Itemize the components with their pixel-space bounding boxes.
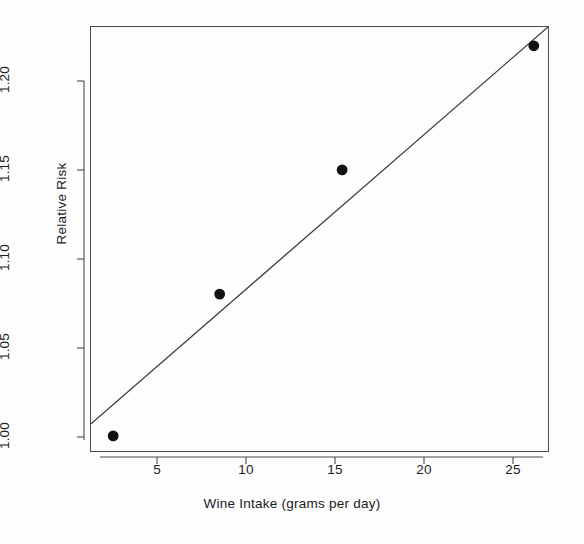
x-axis-title: Wine Intake (grams per day) [0, 496, 584, 511]
y-axis-title: Relative Risk [20, 196, 60, 211]
y-tick-label-text: 1.05 [0, 333, 12, 360]
y-tick-label-text: 1.00 [0, 422, 12, 449]
y-axis-title-text: Relative Risk [54, 162, 69, 244]
x-tick-label-10: 10 [238, 462, 253, 477]
y-tick-label-1-05: 1.05 [0, 339, 28, 354]
y-tick-label-text: 1.10 [0, 244, 12, 271]
x-tick-label-25: 25 [505, 462, 520, 477]
y-tick-label-1-10: 1.10 [0, 250, 28, 265]
x-tick-label-5: 5 [153, 462, 161, 477]
x-tick-label-15: 15 [327, 462, 342, 477]
y-tick-label-text: 1.15 [0, 155, 12, 182]
y-axis [77, 81, 84, 440]
x-tick-label-20: 20 [416, 462, 431, 477]
y-tick-label-text: 1.20 [0, 66, 12, 93]
y-tick-label-1-20: 1.20 [0, 72, 28, 87]
y-tick-label-1-00: 1.00 [0, 428, 28, 443]
y-tick-label-1-15: 1.15 [0, 161, 28, 176]
chart-figure: 5 10 15 20 25 1.00 1.05 1.10 1.15 1.20 R… [0, 0, 584, 544]
plot-frame [90, 26, 549, 452]
x-axis [100, 457, 543, 464]
